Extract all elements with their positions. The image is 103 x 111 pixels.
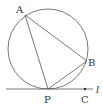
label-C: C xyxy=(81,94,89,105)
label-B: B xyxy=(88,57,95,68)
segment-AP xyxy=(25,15,48,89)
circle xyxy=(8,9,88,89)
label-l: l xyxy=(96,84,99,95)
point-C-dot xyxy=(84,88,87,91)
label-P: P xyxy=(44,94,51,105)
geometry-diagram: A B P C l xyxy=(0,0,103,111)
segment-PB xyxy=(48,61,87,89)
label-A: A xyxy=(15,4,24,15)
